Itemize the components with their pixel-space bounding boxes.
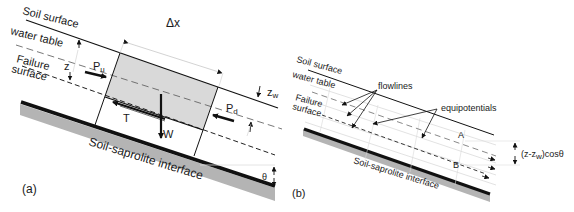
flow-arrow-2 bbox=[488, 167, 495, 169]
equipotentials-callout-arrows bbox=[373, 109, 437, 138]
flowlines-label: flowlines bbox=[378, 81, 413, 91]
z-dimension-line bbox=[73, 50, 78, 72]
t-label: T bbox=[123, 112, 130, 124]
pd-label: Pd bbox=[226, 102, 238, 116]
panel-b-label: (b) bbox=[292, 187, 305, 199]
flow-arrow-1 bbox=[488, 158, 495, 160]
w-label: W bbox=[163, 128, 174, 140]
panel-a-label: (a) bbox=[22, 182, 37, 196]
slope-stability-figure: Soil surface water table Failure surface… bbox=[0, 0, 574, 212]
zw-top-arrow bbox=[258, 86, 260, 97]
head-dimension-label: (z-zw)cosθ bbox=[521, 149, 564, 161]
pd-force-arrow bbox=[213, 115, 234, 121]
delta-x-extension-right bbox=[219, 73, 223, 86]
theta-label: θ bbox=[262, 172, 267, 182]
delta-x-label: Δx bbox=[166, 16, 180, 30]
equipotentials-label: equipotentials bbox=[441, 103, 497, 113]
flow-arrow-3 bbox=[482, 176, 489, 178]
flowlines-callout-arrows bbox=[342, 90, 377, 128]
panel-a: Soil surface water table Failure surface… bbox=[9, 4, 282, 201]
delta-x-extension-left bbox=[120, 42, 124, 53]
point-b-label: B bbox=[453, 160, 459, 170]
zw-label: zw bbox=[267, 86, 279, 100]
soil-surface-label: Soil surface bbox=[22, 4, 81, 30]
point-a-label: A bbox=[458, 130, 464, 140]
z-label: z bbox=[64, 60, 70, 72]
pu-label: Pu bbox=[93, 60, 105, 74]
panel-b: Soil surface water table Failure surface… bbox=[291, 54, 564, 202]
